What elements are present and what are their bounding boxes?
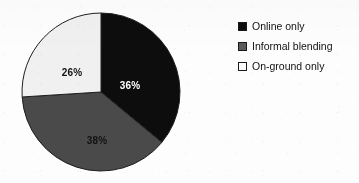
pie-slice-group [22, 13, 180, 171]
legend-swatch-online-only [238, 22, 247, 31]
legend-label-on-ground-only: On-ground only [252, 61, 324, 72]
legend-label-online-only: Online only [252, 21, 305, 32]
chart-legend: Online only Informal blending On-ground … [238, 16, 356, 76]
legend-item-informal-blending[interactable]: Informal blending [238, 36, 356, 56]
legend-swatch-informal-blending [238, 42, 247, 51]
pie-chart-svg [0, 0, 215, 183]
pie-slice-label-informal-blending: 38% [87, 135, 108, 146]
pie-chart-figure: 36% 38% 26% Online only Informal blendin… [0, 0, 359, 183]
legend-item-on-ground-only[interactable]: On-ground only [238, 56, 356, 76]
legend-label-informal-blending: Informal blending [252, 41, 333, 52]
pie-slice-label-on-ground-only: 26% [62, 67, 83, 78]
pie-slice-on-ground-only[interactable] [22, 13, 101, 97]
legend-item-online-only[interactable]: Online only [238, 16, 356, 36]
chart-plot-area: 36% 38% 26% [0, 0, 215, 183]
legend-swatch-on-ground-only [238, 62, 247, 71]
pie-slice-label-online-only: 36% [120, 80, 141, 91]
